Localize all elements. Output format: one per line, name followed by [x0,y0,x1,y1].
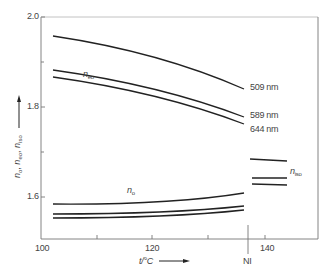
ylabel-sub-iso: iso [17,135,23,143]
y-tick-label-2-0: 2.0 [27,11,39,21]
y-axis-arrow-icon [17,95,21,128]
ylabel-sub-o: o [17,170,23,173]
ylabel-n-o: n [12,173,22,178]
curve-n-eo-644 [53,77,244,124]
plot-area [0,0,333,280]
ylabel-sep-1: , [12,165,22,170]
y-tick-label-1-8: 1.8 [27,101,39,111]
y-axis-label: no, neo, niso [12,135,23,178]
x-ticks [97,235,265,239]
n-o-label: no [127,185,135,196]
legend-509nm: 509 nm [250,82,278,92]
x-axis-label: t/°C [139,256,153,266]
x-axis-arrow-icon [159,259,190,263]
ylabel-n-iso: n [12,143,22,148]
legend-589nm: 589 nm [250,110,278,120]
ylabel-sep-2: , [12,148,22,153]
ylabel-sub-eo: eo [17,153,23,160]
segment-n-iso-509 [250,159,287,161]
segment-n-iso-644 [252,184,287,185]
n-o-curves [53,193,244,218]
n-iso-label: niso [290,166,302,177]
ylabel-n-eo: n [12,160,22,165]
n-iso-segments [250,159,287,185]
n-eo-subscript: eo [88,74,94,80]
curve-n-o-509 [53,193,244,204]
x-tick-label-140: 140 [260,243,274,253]
n-o-subscript: o [132,190,135,196]
n-eo-label: neo [83,69,94,80]
x-tick-label-100: 100 [35,243,49,253]
x-tick-label-120: 120 [145,243,159,253]
ni-label: NI [243,256,251,266]
y-tick-label-1-6: 1.6 [27,191,39,201]
n-eo-curves [53,36,244,124]
n-iso-subscript: iso [295,171,302,177]
legend-644nm: 644 nm [250,124,278,134]
y-ticks [41,17,45,197]
